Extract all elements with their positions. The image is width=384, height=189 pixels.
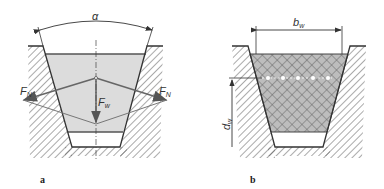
angle-arc <box>40 21 152 30</box>
panel-a-caption: a <box>40 174 45 185</box>
angle-label: α <box>92 10 99 22</box>
panel-b-caption: b <box>250 174 256 185</box>
depth-label: dw <box>220 118 233 130</box>
v-belt-diagram: α FN FN Fw a <box>0 0 384 189</box>
panel-a: α FN FN Fw a <box>20 10 172 185</box>
force-normal-right-label: FN <box>159 85 172 98</box>
panel-b: bw dw b <box>220 16 366 185</box>
width-label: bw <box>293 16 305 29</box>
